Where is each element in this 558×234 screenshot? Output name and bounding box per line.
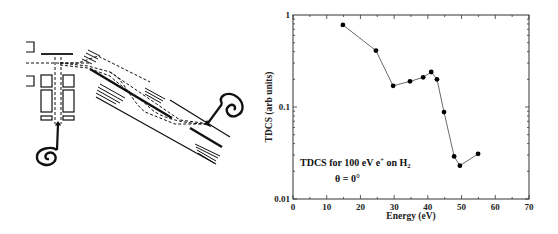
data-markers <box>340 23 480 169</box>
data-point <box>457 163 462 168</box>
data-point <box>476 151 481 156</box>
axis-ticks <box>293 15 529 199</box>
tick-labels: 0102030405060700.010.11 <box>274 10 534 212</box>
data-point <box>435 77 440 82</box>
data-point <box>429 70 434 75</box>
svg-text:0.01: 0.01 <box>274 194 290 204</box>
y-axis-title: TDCS (arb units) <box>264 72 275 143</box>
data-point <box>442 110 447 115</box>
svg-text:60: 60 <box>491 202 501 212</box>
data-point <box>408 79 413 84</box>
svg-text:0.1: 0.1 <box>279 102 291 112</box>
svg-text:10: 10 <box>322 202 332 212</box>
tdcs-chart: 0102030405060700.010.11 Energy (eV) TDCS… <box>262 0 558 234</box>
svg-text:70: 70 <box>525 202 535 212</box>
svg-text:1: 1 <box>286 10 291 20</box>
x-axis-title: Energy (eV) <box>386 211 435 222</box>
spectrometer-schematic <box>0 0 270 234</box>
plot-frame <box>293 15 529 199</box>
data-point <box>340 23 345 28</box>
annotation-line1: TDCS for 100 eV e+ on H2 <box>300 156 411 169</box>
data-point <box>374 48 379 53</box>
svg-text:50: 50 <box>457 202 467 212</box>
data-point <box>391 83 396 88</box>
svg-text:20: 20 <box>356 202 366 212</box>
data-point <box>452 154 457 159</box>
annotation-line2: θ = 0° <box>335 173 360 184</box>
series-line <box>343 25 478 166</box>
svg-text:0: 0 <box>291 202 296 212</box>
data-point <box>421 75 426 80</box>
